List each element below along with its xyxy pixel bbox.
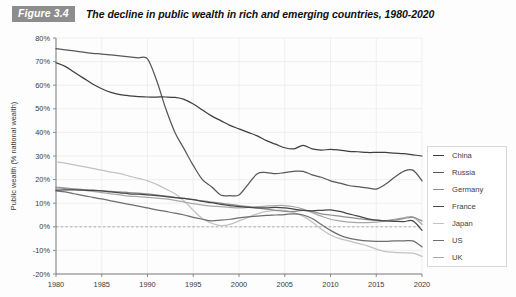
legend-item-japan[interactable]: Japan — [428, 215, 506, 232]
legend-swatch-france-icon — [433, 206, 444, 207]
y-tick-label: 30% — [35, 152, 50, 161]
y-tick-label: 70% — [35, 57, 50, 66]
y-tick-label: -20% — [33, 270, 51, 279]
legend-item-us[interactable]: US — [428, 232, 506, 249]
legend-label: China — [452, 151, 472, 160]
y-axis-title: Public wealth (% national wealth) — [9, 102, 18, 210]
figure-header: Figure 3.4 The decline in public wealth … — [0, 0, 516, 30]
legend-item-uk[interactable]: UK — [428, 249, 506, 266]
y-tick-label: 80% — [35, 34, 50, 43]
x-tick-label: 2005 — [277, 280, 293, 289]
legend-item-germany[interactable]: Germany — [428, 181, 506, 198]
legend-item-china[interactable]: China — [428, 147, 506, 164]
legend-label: UK — [452, 253, 463, 262]
figure-container: Figure 3.4 The decline in public wealth … — [0, 0, 516, 297]
legend-item-russia[interactable]: Russia — [428, 164, 506, 181]
figure-number-badge: Figure 3.4 — [12, 6, 75, 22]
x-tick-label: 2015 — [368, 280, 384, 289]
y-tick-label: -10% — [33, 246, 51, 255]
legend-swatch-japan-icon — [433, 223, 444, 224]
legend-swatch-china-icon — [433, 155, 444, 156]
legend-label: Japan — [452, 219, 473, 228]
x-tick-label: 2000 — [231, 280, 247, 289]
legend-label: Russia — [452, 168, 475, 177]
x-tick-label: 1990 — [139, 280, 155, 289]
x-tick-label: 1985 — [94, 280, 110, 289]
x-tick-label: 2020 — [414, 280, 430, 289]
y-tick-label: 10% — [35, 199, 50, 208]
legend-swatch-uk-icon — [433, 257, 444, 258]
y-tick-label: 60% — [35, 81, 50, 90]
y-tick-label: 40% — [35, 128, 50, 137]
legend-label: Germany — [452, 185, 483, 194]
x-tick-label: 2010 — [322, 280, 338, 289]
x-tick-label: 1995 — [185, 280, 201, 289]
legend-swatch-us-icon — [433, 240, 444, 241]
y-tick-label: 20% — [35, 175, 50, 184]
legend-label: US — [452, 236, 463, 245]
x-tick-label: 1980 — [48, 280, 64, 289]
chart-legend: ChinaRussiaGermanyFranceJapanUSUK — [427, 146, 507, 267]
legend-item-france[interactable]: France — [428, 198, 506, 215]
y-tick-label: 0% — [39, 222, 50, 231]
legend-label: France — [452, 202, 476, 211]
legend-swatch-germany-icon — [433, 189, 444, 190]
figure-title: The decline in public wealth in rich and… — [86, 8, 434, 20]
legend-swatch-russia-icon — [433, 172, 444, 173]
y-tick-label: 50% — [35, 104, 50, 113]
